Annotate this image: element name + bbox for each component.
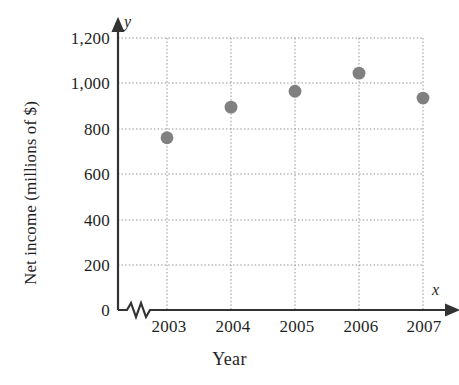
horizontal-gridlines [118, 38, 423, 265]
data-point-2005 [289, 85, 302, 98]
y-tick-label-200: 200 [48, 257, 110, 274]
data-point-2006 [353, 67, 366, 80]
x-tick-label-2005: 2005 [280, 318, 315, 335]
y-axis-variable-label: y [124, 13, 131, 31]
data-point-2007 [417, 92, 430, 105]
y-tick-label-1000: 1,000 [48, 75, 110, 92]
y-tick-label-0: 0 [48, 302, 110, 319]
x-tick-label-2003: 2003 [152, 318, 187, 335]
y-tick-label-400: 400 [48, 212, 110, 229]
y-tick-label-800: 800 [48, 121, 110, 138]
x-tick-label-2006: 2006 [344, 318, 379, 335]
y-tick-label-1200: 1,200 [48, 30, 110, 47]
x-axis-title: Year [0, 349, 459, 370]
data-point-2004 [225, 101, 238, 114]
x-axis-variable-label: x [432, 281, 439, 299]
y-tick-label-600: 600 [48, 166, 110, 183]
y-axis-title-container: Net income (millions of $) [18, 0, 44, 385]
x-tick-label-2004: 2004 [216, 318, 251, 335]
scatter-plot-figure: 1,200 1,000 800 600 400 200 0 2003 2004 … [0, 0, 459, 385]
data-point-2003 [161, 131, 174, 144]
x-tick-label-2007: 2007 [407, 318, 442, 335]
y-axis-title: Net income (millions of $) [21, 101, 41, 285]
